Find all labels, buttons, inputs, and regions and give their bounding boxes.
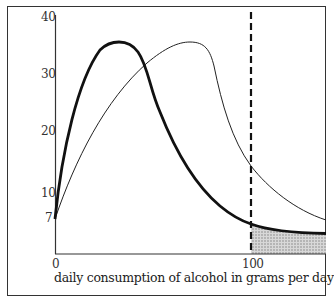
y-tick-30: 30 [41, 67, 55, 81]
x-tick-100: 100 [242, 257, 263, 271]
x-tick-0: 0 [52, 257, 59, 271]
x-axis-label: daily consumption of alcohol in grams pe… [54, 270, 334, 285]
y-tick-20: 20 [41, 124, 55, 138]
y-tick-7: 7 [45, 211, 52, 225]
thick-curve [55, 42, 326, 234]
thin-curve [55, 42, 326, 220]
y-tick-40: 40 [41, 10, 55, 24]
y-tick-10: 10 [41, 186, 55, 200]
